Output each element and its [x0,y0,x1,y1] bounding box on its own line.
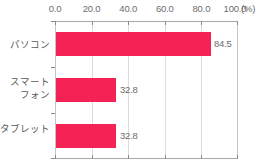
x-tick-mark-top-80 [201,21,202,25]
x-tick-mark-bottom-0 [55,155,56,159]
x-tick-mark-bottom-100 [237,155,238,159]
x-axis-unit-label: (%) [241,3,255,14]
x-tick-mark-bottom-20 [92,155,93,159]
gridline-100 [237,21,238,159]
y-tick-mark-0 [51,21,55,22]
x-tick-mark-bottom-40 [128,155,129,159]
bar-value-smartphone: 32.8 [120,84,138,95]
category-label-smartphone-line2: フォン [10,88,50,101]
horizontal-bar-chart: 0.0 20.0 40.0 60.0 80.0 100.0 (%) パソコン ス… [0,0,268,166]
x-axis-tick-label-0: 0.0 [49,3,62,14]
bar-smartphone [56,78,116,102]
x-axis-tick-label-20: 20.0 [83,3,101,14]
x-axis-tick-label-60: 60.0 [156,3,174,14]
x-axis-tick-label-80: 80.0 [193,3,211,14]
y-tick-mark-1 [51,67,55,68]
x-tick-mark-top-100 [237,21,238,25]
x-tick-mark-bottom-60 [165,155,166,159]
y-tick-mark-2 [51,113,55,114]
x-tick-mark-top-0 [55,21,56,25]
category-label-smartphone-line1: スマート [10,76,50,87]
bar-tablet [56,124,116,148]
category-label-smartphone: スマート フォン [10,75,50,101]
x-axis-line-top [55,21,238,22]
plot-area: 84.5 32.8 32.8 [55,21,238,159]
category-label-tablet: タブレット [0,122,50,135]
x-axis-tick-label-40: 40.0 [119,3,137,14]
category-label-pc-line1: パソコン [10,39,50,50]
x-axis-tick-labels: 0.0 20.0 40.0 60.0 80.0 100.0 (%) [0,3,268,16]
category-label-pc: パソコン [10,38,50,51]
bar-value-pc: 84.5 [214,38,232,49]
bar-pc [56,32,211,56]
category-label-tablet-line1: タブレット [0,123,50,134]
x-tick-mark-top-40 [128,21,129,25]
x-tick-mark-top-60 [165,21,166,25]
y-tick-mark-3 [51,158,55,159]
x-tick-mark-top-20 [92,21,93,25]
bar-value-tablet: 32.8 [120,130,138,141]
x-tick-mark-bottom-80 [201,155,202,159]
x-axis-line-bottom [55,158,238,159]
